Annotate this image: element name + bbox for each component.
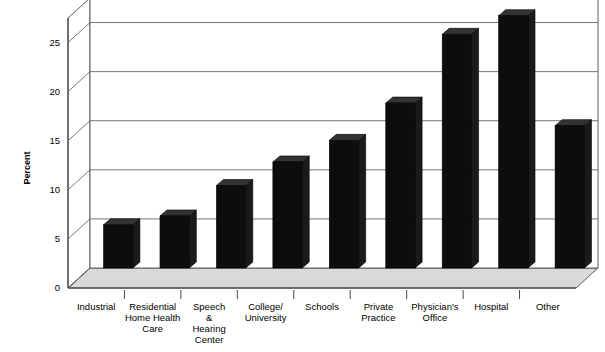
chart-canvas: 0510152025 IndustrialResidentialHome Hea… <box>0 0 605 352</box>
bar-front-face <box>442 34 471 268</box>
x-category-label: Hospital <box>474 301 508 312</box>
bar-side-face <box>584 120 591 268</box>
bar-front-face <box>329 140 358 268</box>
x-category-label: Residential <box>129 301 176 312</box>
bar <box>555 120 591 268</box>
bar <box>386 97 422 268</box>
x-category-label: Other <box>536 301 560 312</box>
x-axis-ticks <box>68 288 576 299</box>
bar-front-face <box>499 16 528 268</box>
y-tick-label: 15 <box>49 135 60 146</box>
bar-front-face <box>273 162 302 268</box>
bar-side-face <box>133 219 140 268</box>
x-category-label: Industrial <box>77 301 116 312</box>
x-category-label: Office <box>423 312 448 323</box>
x-category-label: & <box>206 312 213 323</box>
bar-side-face <box>246 180 253 268</box>
bar-front-face <box>104 225 133 268</box>
bar <box>160 210 196 268</box>
bar-side-face <box>189 210 196 268</box>
x-category-label: Private <box>364 301 394 312</box>
x-category-label: Schools <box>305 301 339 312</box>
bar-front-face <box>555 126 584 268</box>
y-tick-label: 20 <box>49 86 60 97</box>
y-axis-ticks: 0510152025 <box>49 37 60 293</box>
y-tick-label: 0 <box>55 282 60 293</box>
bar-side-face <box>415 97 422 268</box>
x-category-label: Care <box>142 323 163 334</box>
x-category-label: Physician's <box>411 301 458 312</box>
bar-side-face <box>359 134 366 268</box>
x-category-label: College/ <box>248 301 283 312</box>
bar-side-face <box>528 10 535 268</box>
bar-front-face <box>216 186 245 268</box>
y-tick-label: 5 <box>55 233 60 244</box>
bar-front-face <box>160 216 189 268</box>
x-category-label: Speech <box>193 301 225 312</box>
x-category-label: Center <box>195 334 224 345</box>
y-tick-label: 10 <box>49 184 60 195</box>
y-axis-title: Percent <box>22 151 32 184</box>
chart-floor-plane <box>68 268 598 288</box>
bar <box>499 10 535 268</box>
x-category-label: Practice <box>361 312 395 323</box>
bar <box>104 219 140 268</box>
y-tick-label: 25 <box>49 37 60 48</box>
bar <box>329 134 365 268</box>
x-category-label: Home Health <box>125 312 180 323</box>
chart-left-wall <box>68 0 90 288</box>
x-category-label: University <box>245 312 287 323</box>
bar <box>273 156 309 268</box>
bar-side-face <box>472 28 479 268</box>
x-axis-category-labels: IndustrialResidentialHome HealthCareSpee… <box>77 301 560 345</box>
bar <box>442 28 478 268</box>
bar <box>216 180 252 268</box>
bar-side-face <box>302 156 309 268</box>
x-category-label: Hearing <box>192 323 225 334</box>
bar-front-face <box>386 103 415 268</box>
bar-chart-figure: 0510152025 IndustrialResidentialHome Hea… <box>0 0 605 352</box>
